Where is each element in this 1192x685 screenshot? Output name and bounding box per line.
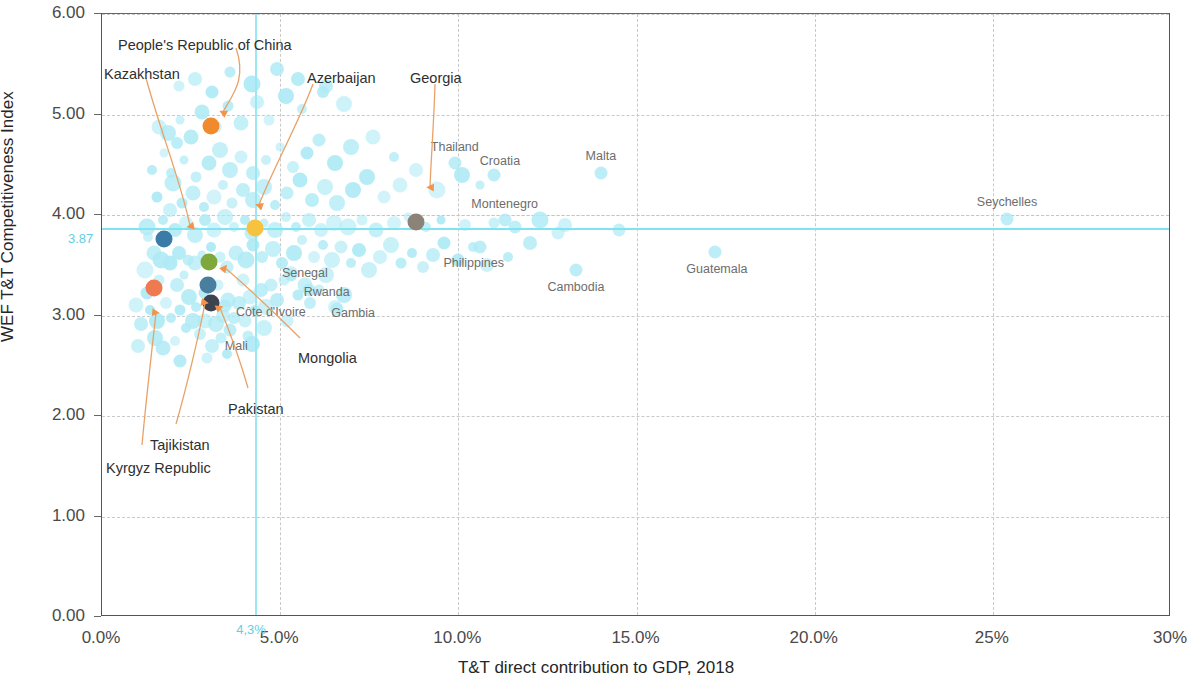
plot-area: ThailandCroatiaMaltaMontenegroSeychelles… xyxy=(101,13,1170,616)
scatter-point xyxy=(392,177,407,192)
scatter-point xyxy=(261,155,271,165)
scatter-point xyxy=(171,137,183,149)
scatter-point-named xyxy=(594,166,607,179)
y-axis-tick-label: 6.00 xyxy=(52,3,85,23)
scatter-point xyxy=(175,305,186,316)
gridline-horizontal xyxy=(102,115,1169,116)
point-label: Croatia xyxy=(480,154,520,168)
callout-label: Georgia xyxy=(410,70,462,86)
scatter-point xyxy=(170,336,180,346)
scatter-point xyxy=(238,252,255,269)
scatter-point xyxy=(212,142,228,158)
highlighted-point-tajikistan xyxy=(200,277,217,294)
scatter-point xyxy=(246,166,260,180)
scatter-point xyxy=(205,339,219,353)
y-axis-title: WEF T&T Competitiveness Index xyxy=(0,91,18,342)
scatter-point xyxy=(409,163,423,177)
scatter-point-named xyxy=(224,323,237,336)
gridline-horizontal xyxy=(102,14,1169,15)
scatter-point xyxy=(138,219,155,236)
scatter-point xyxy=(152,119,167,134)
scatter-point xyxy=(317,179,333,195)
scatter-point xyxy=(359,169,375,185)
highlighted-point-people-s-republic-of-china xyxy=(202,117,219,134)
scatter-point xyxy=(155,340,170,355)
scatter-point xyxy=(206,86,219,99)
x-axis-tick-label: 15.0% xyxy=(611,628,659,648)
scatter-point xyxy=(532,212,549,229)
scatter-point xyxy=(281,212,291,222)
callout-label: Pakistan xyxy=(228,401,284,417)
callout-label: Kazakhstan xyxy=(104,66,180,82)
scatter-point xyxy=(318,240,328,250)
scatter-point xyxy=(369,223,384,238)
scatter-point xyxy=(185,185,200,200)
scatter-point xyxy=(243,76,260,93)
scatter-point xyxy=(218,180,228,190)
x-axis-tick-label: 30% xyxy=(1153,628,1187,648)
scatter-point xyxy=(334,241,347,254)
scatter-point xyxy=(297,104,307,114)
scatter-point xyxy=(229,222,239,232)
scatter-point xyxy=(426,248,440,262)
highlight-y-tick-label: 3.87 xyxy=(68,231,93,246)
scatter-point xyxy=(270,62,284,76)
scatter-point-named xyxy=(473,241,486,254)
gridline-horizontal xyxy=(102,517,1169,518)
scatter-point-named xyxy=(448,156,461,169)
scatter-point xyxy=(523,236,537,250)
scatter-point xyxy=(247,239,260,252)
scatter-point xyxy=(194,328,206,340)
point-label: Seychelles xyxy=(977,195,1037,209)
scatter-point xyxy=(236,274,249,287)
point-label: Gambia xyxy=(331,306,375,320)
scatter-point xyxy=(188,72,202,86)
scatter-point xyxy=(177,197,188,208)
gridline-vertical xyxy=(458,14,459,615)
scatter-point xyxy=(234,150,247,163)
y-axis-tick-mark xyxy=(94,616,101,617)
scatter-point xyxy=(377,190,390,203)
scatter-point xyxy=(199,202,209,212)
scatter-point xyxy=(265,279,278,292)
point-label: Rwanda xyxy=(304,285,350,299)
highlighted-point-pakistan xyxy=(202,295,219,312)
scatter-point-named xyxy=(708,246,721,259)
scatter-point xyxy=(264,114,275,125)
scatter-point xyxy=(352,243,366,257)
y-axis-tick-label: 2.00 xyxy=(52,405,85,425)
scatter-point xyxy=(207,189,222,204)
point-label: Philippines xyxy=(443,256,503,270)
scatter-point xyxy=(160,297,172,309)
scatter-point xyxy=(233,115,248,130)
gridline-vertical xyxy=(637,14,638,615)
scatter-point xyxy=(612,224,625,237)
scatter-point xyxy=(245,192,261,208)
scatter-point xyxy=(475,180,484,189)
scatter-point xyxy=(256,320,272,336)
scatter-point xyxy=(223,101,234,112)
y-axis-tick-mark xyxy=(94,13,101,14)
scatter-point xyxy=(170,278,184,292)
scatter-point xyxy=(128,298,143,313)
y-axis-tick-mark xyxy=(94,415,101,416)
scatter-point xyxy=(163,203,177,217)
scatter-point xyxy=(313,133,326,146)
scatter-point xyxy=(287,161,299,173)
scatter-point xyxy=(308,251,320,263)
y-axis-tick-mark xyxy=(94,315,101,316)
scatter-point xyxy=(454,167,470,183)
scatter-point xyxy=(136,262,153,279)
y-axis-tick-label: 3.00 xyxy=(52,305,85,325)
callout-label: Mongolia xyxy=(298,350,357,366)
scatter-point xyxy=(345,182,361,198)
point-label: Cambodia xyxy=(547,280,604,294)
scatter-point xyxy=(286,245,302,261)
callout-label: Kyrgyz Republic xyxy=(106,460,211,476)
scatter-point xyxy=(336,96,352,112)
callout-label: Tajikistan xyxy=(150,437,210,453)
highlighted-point-mongolia xyxy=(200,254,217,271)
scatter-point xyxy=(270,200,280,210)
callout-label: Azerbaijan xyxy=(307,70,376,86)
scatter-point xyxy=(339,219,356,236)
